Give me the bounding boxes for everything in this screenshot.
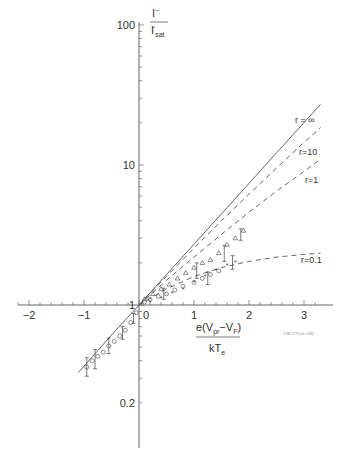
circle-marker bbox=[112, 339, 116, 343]
y-tick-label: 100 bbox=[117, 19, 135, 31]
y-tick-label: 10 bbox=[123, 159, 135, 171]
x-tick-label: −2 bbox=[23, 309, 36, 321]
y-axis-title-denominator: I−sat bbox=[151, 24, 165, 38]
circle-marker bbox=[118, 334, 122, 338]
curve-r-1 bbox=[139, 159, 321, 305]
triangle-marker bbox=[183, 270, 188, 274]
figure-reference-code: CTRD 2778 (rev. 1086) bbox=[283, 332, 314, 336]
circle-marker bbox=[165, 292, 169, 296]
circle-marker bbox=[209, 273, 213, 277]
curve-label: r=1 bbox=[305, 175, 318, 185]
triangle-marker bbox=[216, 251, 221, 255]
circle-marker bbox=[96, 354, 100, 358]
triangle-marker bbox=[192, 265, 197, 269]
star-marker: * bbox=[204, 273, 207, 280]
circle-marker bbox=[129, 320, 133, 324]
chart-canvas: ********* −2−101231001010.2I−I−sate(Vpr−… bbox=[0, 0, 343, 462]
triangle-marker bbox=[167, 282, 172, 286]
circle-marker bbox=[90, 359, 94, 363]
triangle-marker bbox=[200, 260, 205, 264]
circle-marker bbox=[134, 311, 138, 315]
star-marker: * bbox=[160, 295, 163, 302]
x-tick-label: 0 bbox=[143, 309, 149, 321]
y-tick-label: 1 bbox=[129, 299, 135, 311]
x-axis-title-numerator: e(Vpr−VF) bbox=[196, 321, 241, 336]
axes bbox=[18, 22, 333, 448]
x-tick-label: 1 bbox=[191, 309, 197, 321]
triangle-marker bbox=[225, 242, 230, 246]
curve-label: r = ∞ bbox=[295, 115, 315, 125]
star-marker: * bbox=[215, 267, 218, 274]
star-marker: * bbox=[193, 279, 196, 286]
triangle-marker bbox=[233, 236, 238, 240]
star-marker: * bbox=[149, 299, 152, 306]
triangle-marker bbox=[175, 276, 180, 280]
x-axis-title-denominator: kTe bbox=[209, 342, 225, 356]
x-tick-label: 3 bbox=[301, 309, 307, 321]
circle-marker bbox=[101, 350, 105, 354]
curve-label: r=10 bbox=[299, 147, 317, 157]
y-axis-title-numerator: I− bbox=[152, 7, 159, 19]
y-tick-label: 0.2 bbox=[120, 397, 135, 409]
circle-marker bbox=[123, 328, 127, 332]
star-marker: * bbox=[182, 286, 185, 293]
star-marker: * bbox=[226, 262, 229, 269]
star-marker: * bbox=[234, 259, 237, 266]
star-marker: * bbox=[171, 290, 174, 297]
curve-r-10 bbox=[139, 128, 321, 305]
curve-r-0.1 bbox=[139, 253, 321, 305]
triangle-marker bbox=[208, 257, 213, 261]
curve-label: r=0.1 bbox=[301, 255, 322, 265]
x-tick-label: −1 bbox=[78, 309, 91, 321]
x-tick-label: 2 bbox=[246, 309, 252, 321]
labels: −2−101231001010.2I−I−sate(Vpr−VF)kTeCTRD… bbox=[23, 7, 322, 409]
